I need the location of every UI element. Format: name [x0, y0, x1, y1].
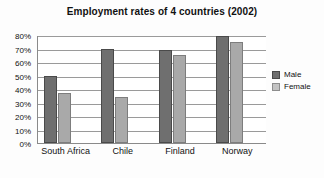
bar-male-finland[interactable] [159, 50, 172, 143]
y-tick-label: 80% [15, 32, 31, 41]
legend-item-female[interactable]: Female [272, 82, 322, 91]
bar-group [210, 36, 267, 143]
bar-male-south-africa[interactable] [44, 76, 57, 144]
bar-group [38, 36, 95, 143]
y-tick-label: 50% [15, 72, 31, 81]
x-axis: South AfricaChileFinlandNorway [37, 146, 266, 162]
y-tick-label: 60% [15, 59, 31, 68]
bars-layer [38, 36, 266, 143]
y-tick-label: 10% [15, 126, 31, 135]
chart-title: Employment rates of 4 countries (2002) [0, 6, 324, 17]
y-tick-label: 20% [15, 113, 31, 122]
chart-container: Employment rates of 4 countries (2002) 0… [0, 0, 324, 178]
bar-female-south-africa[interactable] [58, 93, 71, 143]
bar-male-chile[interactable] [101, 49, 114, 144]
chart-legend: MaleFemale [272, 70, 322, 94]
y-axis: 0%10%20%30%40%50%60%70%80% [0, 36, 34, 144]
bar-female-norway[interactable] [230, 42, 243, 143]
x-tick-label: South Africa [41, 146, 90, 156]
y-tick-label: 70% [15, 45, 31, 54]
y-tick-label: 30% [15, 99, 31, 108]
bar-female-finland[interactable] [173, 55, 186, 143]
bar-male-norway[interactable] [216, 36, 229, 143]
legend-item-male[interactable]: Male [272, 70, 322, 79]
x-tick-label: Norway [222, 146, 253, 156]
bar-group [153, 36, 210, 143]
legend-swatch-icon [272, 83, 280, 91]
bar-female-chile[interactable] [115, 97, 128, 143]
y-tick-label: 0% [19, 140, 31, 149]
bar-group [95, 36, 152, 143]
x-tick-label: Chile [113, 146, 134, 156]
y-tick-label: 40% [15, 86, 31, 95]
legend-label: Female [284, 82, 311, 91]
legend-label: Male [284, 70, 301, 79]
x-tick-label: Finland [165, 146, 195, 156]
legend-swatch-icon [272, 71, 280, 79]
plot-area [37, 36, 266, 144]
